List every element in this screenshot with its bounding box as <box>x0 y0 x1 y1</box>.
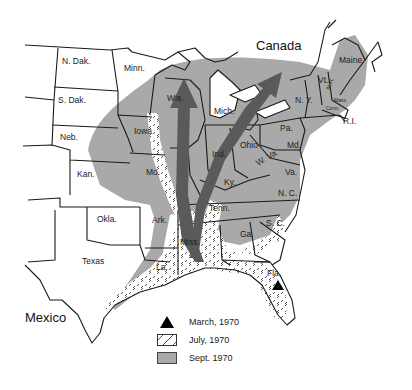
state-label: Kan. <box>77 169 95 179</box>
state-label: Mass. <box>334 97 347 103</box>
legend-item-march: March, 1970 <box>157 313 287 331</box>
state-label: Conn. <box>326 105 339 111</box>
state-label: Fla. <box>267 268 281 278</box>
gray-swatch-icon <box>157 352 177 364</box>
state-label: Ky. <box>224 177 236 187</box>
state-label: S. C. <box>266 218 285 228</box>
state-label: Texas <box>82 256 104 266</box>
state-label: Okla. <box>97 214 117 224</box>
state-label: Iowa <box>134 126 152 136</box>
state-label: N. Y. <box>295 95 313 105</box>
legend-label: Sept. 1970 <box>189 353 233 363</box>
legend: March, 1970 July, 1970 Sept. 1970 <box>157 313 287 367</box>
hatch-swatch-icon <box>157 334 177 346</box>
legend-item-sept: Sept. 1970 <box>157 349 287 367</box>
state-label: Mo. <box>146 167 160 177</box>
label-mexico: Mexico <box>25 310 66 325</box>
state-label: Maine <box>339 55 362 65</box>
state-label: Tenn. <box>209 203 230 213</box>
state-label: Ohio <box>240 140 258 150</box>
state-label: N. Dak. <box>62 56 90 66</box>
triangle-icon <box>160 316 174 328</box>
state-label: Minn. <box>124 63 145 73</box>
legend-label: July, 1970 <box>189 335 229 345</box>
label-canada: Canada <box>256 38 302 53</box>
state-label: Md. <box>287 140 301 150</box>
state-label: Mich. <box>214 106 234 116</box>
state-label: Miss. <box>180 237 200 247</box>
state-label: Pa. <box>280 123 293 133</box>
state-label: Ark. <box>152 215 167 225</box>
state-label: Ind. <box>212 149 226 159</box>
legend-item-july: July, 1970 <box>157 331 287 349</box>
state-label: N. C. <box>278 188 297 198</box>
legend-label: March, 1970 <box>189 317 239 327</box>
state-label: S. Dak. <box>58 95 86 105</box>
state-label: R.I. <box>343 116 356 126</box>
state-label: Va. <box>285 167 297 177</box>
state-label: Wis. <box>167 93 184 103</box>
state-label: La. <box>156 262 168 272</box>
state-label: Neb. <box>60 132 78 142</box>
state-label: Ga. <box>240 229 254 239</box>
